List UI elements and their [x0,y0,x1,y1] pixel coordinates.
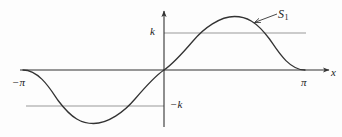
curve-label-base: S [278,7,284,21]
plot-canvas [0,0,342,137]
y-tick-label-k: k [150,26,155,37]
x-tick-label-pi: π [301,77,307,88]
curve-label-subscript: 1 [285,13,289,22]
curve-label-s1: S1 [278,8,288,20]
figure-container: −π π k −k x S1 [0,0,342,137]
y-tick-label-negative-k: −k [170,99,182,110]
x-axis-label: x [331,67,336,78]
x-tick-label-negative-pi: −π [12,77,25,88]
curve-label-leader-line [255,14,278,23]
